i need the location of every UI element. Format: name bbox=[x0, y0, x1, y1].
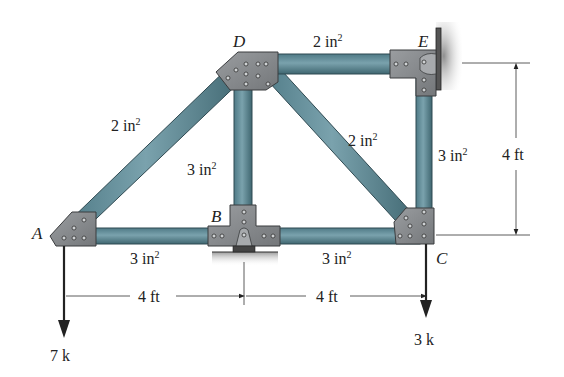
area-label-ab: 3 in2 bbox=[130, 250, 159, 267]
wall-support-e bbox=[436, 22, 462, 90]
area-label-bc: 3 in2 bbox=[322, 250, 351, 267]
truss-diagram: D E A B C 2 in2 2 in2 2 in2 3 in2 3 in2 … bbox=[0, 0, 564, 377]
member-bd bbox=[234, 74, 252, 214]
load-label-c: 3 k bbox=[414, 332, 434, 348]
truss-drawing bbox=[0, 0, 564, 377]
member-dc bbox=[258, 60, 422, 232]
area-label-ad: 2 in2 bbox=[111, 117, 140, 134]
roller-ground-b bbox=[212, 252, 278, 266]
node-label-e: E bbox=[418, 33, 428, 50]
node-label-c: C bbox=[436, 250, 447, 267]
area-label-ec: 3 in2 bbox=[438, 147, 467, 164]
area-label-de: 2 in2 bbox=[313, 33, 342, 50]
node-label-d: D bbox=[233, 33, 245, 50]
node-label-b: B bbox=[211, 208, 221, 225]
load-label-a: 7 k bbox=[50, 348, 70, 364]
dimension-label-ab: 4 ft bbox=[138, 289, 160, 305]
node-label-a: A bbox=[32, 225, 42, 242]
area-label-dc: 2 in2 bbox=[348, 132, 377, 149]
dimension-label-bc: 4 ft bbox=[316, 289, 338, 305]
dimension-label-height: 4 ft bbox=[502, 147, 524, 163]
area-label-bd: 3 in2 bbox=[187, 161, 216, 178]
